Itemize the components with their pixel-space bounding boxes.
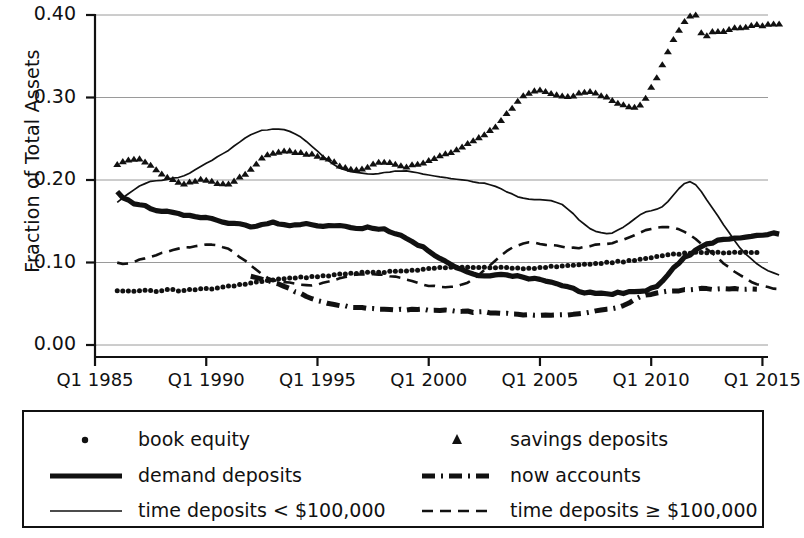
- marker-dot: [426, 266, 431, 271]
- marker-dot: [432, 266, 437, 271]
- marker-dot: [176, 288, 181, 293]
- marker-dot: [660, 253, 665, 258]
- marker-dot: [348, 271, 353, 276]
- marker-dot: [159, 288, 164, 293]
- series-demand-deposits: [117, 192, 779, 295]
- marker-dot: [715, 250, 720, 255]
- marker-triangle: [681, 18, 689, 24]
- marker-dot: [165, 287, 170, 292]
- marker-dot: [554, 264, 559, 269]
- marker-dot: [532, 266, 537, 271]
- marker-triangle: [197, 176, 205, 182]
- marker-dot: [298, 274, 303, 279]
- marker-dot: [654, 254, 659, 259]
- y-tick-label: 0.30: [0, 85, 76, 107]
- marker-dot: [82, 437, 88, 443]
- marker-triangle: [658, 61, 666, 67]
- marker-triangle: [647, 84, 655, 90]
- marker-triangle: [664, 48, 672, 54]
- marker-triangle: [697, 29, 705, 35]
- marker-dot: [332, 272, 337, 277]
- x-tick-label: Q1 2000: [374, 369, 484, 390]
- legend-label: demand deposits: [128, 464, 302, 486]
- legend-item-book-equity[interactable]: book equity: [42, 422, 250, 456]
- marker-triangle: [514, 98, 522, 104]
- marker-triangle: [141, 159, 149, 165]
- marker-dot: [232, 283, 237, 288]
- marker-dot: [638, 257, 643, 262]
- marker-triangle: [252, 161, 260, 167]
- marker-dot: [204, 286, 209, 291]
- marker-triangle: [269, 150, 277, 156]
- marker-dot: [404, 268, 409, 273]
- marker-dot: [143, 288, 148, 293]
- marker-triangle: [508, 105, 516, 111]
- marker-triangle: [653, 74, 661, 80]
- marker-triangle: [386, 159, 394, 165]
- x-tick-label: Q1 1990: [151, 369, 261, 390]
- legend-item-now-accounts[interactable]: now accounts: [414, 458, 641, 492]
- legend-key-thick-solid-icon: [42, 460, 128, 490]
- legend-item-demand-deposits[interactable]: demand deposits: [42, 458, 302, 492]
- marker-dot: [365, 270, 370, 275]
- marker-dot: [398, 268, 403, 273]
- marker-dot: [198, 286, 203, 291]
- marker-dot: [326, 274, 331, 279]
- marker-triangle: [297, 149, 305, 155]
- marker-dot: [521, 266, 526, 271]
- legend-key-thin-solid-icon: [42, 495, 128, 525]
- marker-dot: [560, 264, 565, 269]
- legend-item-savings-deposits[interactable]: savings deposits: [414, 422, 668, 456]
- marker-dot: [237, 282, 242, 287]
- marker-dot: [604, 260, 609, 265]
- marker-dot: [593, 261, 598, 266]
- marker-dot: [510, 266, 515, 271]
- marker-triangle: [686, 13, 694, 19]
- legend-key-dashed-icon: [414, 495, 500, 525]
- marker-triangle: [586, 88, 594, 94]
- y-tick-label: 0.20: [0, 167, 76, 189]
- legend-item-time-deposits-100-000[interactable]: time deposits < $100,000: [42, 493, 386, 527]
- marker-triangle: [452, 434, 462, 444]
- marker-triangle: [469, 137, 477, 143]
- marker-triangle: [536, 87, 544, 93]
- marker-triangle: [747, 22, 755, 28]
- marker-dot: [476, 265, 481, 270]
- marker-dot: [131, 289, 136, 294]
- marker-dot: [732, 250, 737, 255]
- legend-key-dotted-markers-icon: [42, 424, 128, 454]
- marker-dot: [643, 256, 648, 261]
- marker-dot: [543, 265, 548, 270]
- marker-dot: [549, 264, 554, 269]
- marker-dot: [148, 288, 153, 293]
- y-tick-label: 0.10: [0, 250, 76, 272]
- x-tick-label: Q1 1995: [262, 369, 372, 390]
- marker-dot: [599, 261, 604, 266]
- legend-label: now accounts: [500, 464, 641, 486]
- marker-dot: [393, 269, 398, 274]
- marker-dot: [170, 287, 175, 292]
- marker-dot: [754, 250, 759, 255]
- marker-dot: [193, 287, 198, 292]
- legend-item-time-deposits-100-000[interactable]: time deposits ≥ $100,000: [414, 493, 758, 527]
- x-tick-label: Q1 2010: [596, 369, 706, 390]
- marker-triangle: [135, 155, 143, 161]
- marker-dot: [504, 265, 509, 270]
- marker-dot: [220, 285, 225, 290]
- marker-dot: [615, 259, 620, 264]
- marker-dot: [677, 252, 682, 257]
- y-tick-label: 0.00: [0, 332, 76, 354]
- marker-triangle: [147, 162, 155, 168]
- marker-dot: [293, 276, 298, 281]
- marker-dot: [471, 265, 476, 270]
- marker-dot: [499, 265, 504, 270]
- marker-dot: [215, 285, 220, 290]
- marker-dot: [665, 252, 670, 257]
- marker-dot: [287, 275, 292, 280]
- marker-dot: [493, 265, 498, 270]
- marker-dot: [482, 265, 487, 270]
- marker-dot: [321, 273, 326, 278]
- marker-triangle: [669, 36, 677, 42]
- marker-dot: [115, 288, 120, 293]
